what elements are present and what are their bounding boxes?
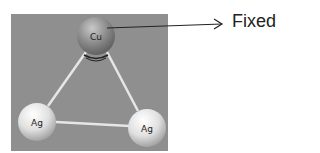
atom-label-ag-right: Ag	[141, 124, 153, 134]
atom-label-cu: Cu	[90, 32, 102, 42]
annotation-label-fixed: Fixed	[232, 11, 276, 32]
atom-label-ag-left: Ag	[31, 118, 43, 128]
